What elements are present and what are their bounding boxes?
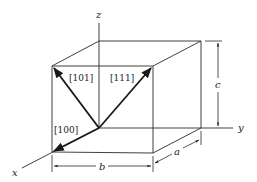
x-axis-label: x [12, 167, 18, 178]
z-axis-label: z [95, 9, 102, 20]
edge [153, 41, 201, 66]
edge [52, 41, 99, 66]
c-label: c [215, 79, 221, 90]
y-axis-label: y [237, 122, 244, 133]
dimension-c: c [205, 41, 222, 126]
edge [52, 152, 153, 153]
dimension-b: b [52, 155, 153, 172]
unit-cell-diagram: [101] [111] [100] z y x c b a [0, 0, 257, 182]
label-111: [111] [110, 73, 134, 83]
label-100: [100] [54, 125, 78, 135]
a-label: a [174, 146, 180, 157]
b-label: b [99, 161, 105, 172]
dimension-a: a [155, 131, 201, 163]
label-101: [101] [69, 73, 93, 83]
